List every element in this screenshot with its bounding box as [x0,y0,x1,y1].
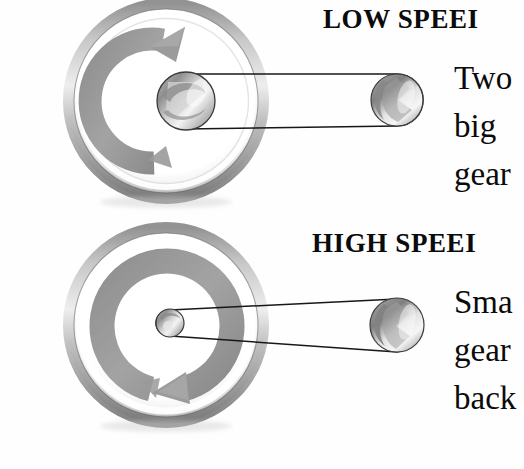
low-speed-caption-line-3: gear [454,158,511,191]
low-speed-drive-pulley [157,72,215,130]
high-speed-caption-line-2: gear [454,334,511,367]
high-speed-heading: HIGH SPEEI [312,230,476,257]
high-speed-drive-pulley [156,309,184,337]
low-speed-driven-pulley [371,74,423,126]
low-speed-heading: LOW SPEEI [323,6,479,33]
low-speed-caption-line-1: Two [454,62,512,95]
high-speed-driven-pulley [370,298,424,352]
high-speed-caption-line-1: Sma [454,286,513,319]
diagram-canvas: LOW SPEEI Two big gear HIGH SPEEI Sma ge… [0,0,524,469]
high-speed-caption-line-3: back [454,382,516,415]
low-speed-caption-line-2: big [454,110,496,143]
